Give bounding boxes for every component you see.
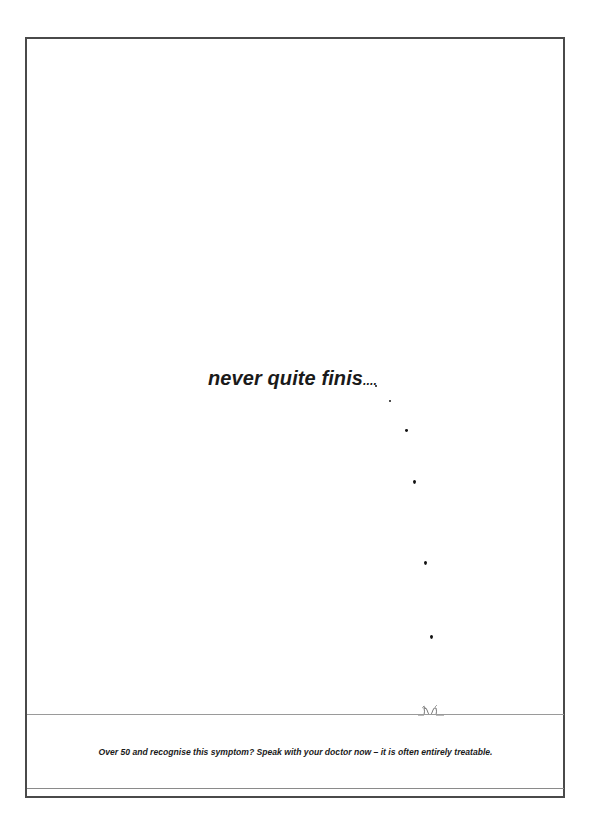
headline: never quite finis....: [208, 367, 377, 390]
headline-text: never quite finis: [208, 367, 363, 389]
bottom-rule: [27, 788, 564, 789]
poster-frame: [25, 37, 565, 798]
ground-line: [27, 714, 564, 715]
tagline: Over 50 and recognise this symptom? Spea…: [0, 747, 591, 757]
